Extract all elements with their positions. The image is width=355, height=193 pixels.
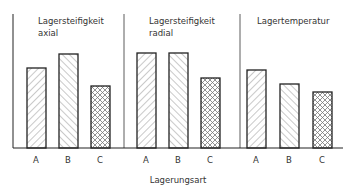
panel-1-title-line2: axial (38, 28, 58, 38)
bar-panel-3-c (313, 92, 332, 148)
tick-label-p2-a: A (143, 155, 149, 165)
tick-label-p1-b: B (65, 155, 71, 165)
bar-panel-1-c (91, 86, 110, 148)
tick-label-p2-c: C (207, 155, 213, 165)
bar-chart: Lagersteifigkeit axial Lagersteifigkeit … (0, 0, 355, 193)
bar-panel-2-c (201, 78, 220, 148)
panel-3-title-line1: Lagertemperatur (257, 16, 330, 26)
tick-label-p3-b: B (286, 155, 292, 165)
bars (27, 53, 332, 148)
panel-1-title-line1: Lagersteifigkeit (38, 16, 104, 26)
bar-panel-2-b (169, 53, 188, 148)
tick-label-p2-b: B (175, 155, 181, 165)
panel-2-title-line2: radial (149, 28, 173, 38)
bar-panel-2-a (137, 53, 156, 148)
tick-label-p3-c: C (319, 155, 325, 165)
tick-label-p3-a: A (253, 155, 259, 165)
bar-panel-1-b (59, 54, 78, 148)
bar-panel-1-a (27, 68, 46, 148)
panel-2-title-line1: Lagersteifigkeit (149, 16, 215, 26)
x-axis-label: Lagerungsart (150, 175, 207, 185)
tick-label-p1-a: A (33, 155, 39, 165)
tick-label-p1-c: C (97, 155, 103, 165)
bar-panel-3-a (247, 70, 266, 148)
bar-panel-3-b (280, 84, 299, 148)
